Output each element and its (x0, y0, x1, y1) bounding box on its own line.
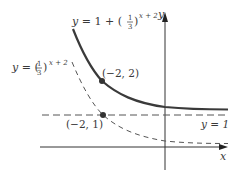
curve-solid-frac-num: 1 (128, 14, 132, 22)
curve-dashed-frac-num: 1 (37, 60, 41, 68)
graph-canvas: y = 1 + ( 1 3 ) x + 2 y y = ( 1 3 ) x + … (0, 0, 246, 181)
curve-dashed-frac-den: 3 (37, 69, 41, 77)
curve-dashed-label: y = ( (11, 61, 39, 74)
curve-solid-label: y = 1 + ( (71, 15, 122, 28)
point-label-neg2-2: (−2, 2) (102, 67, 139, 79)
paren-close: ) (43, 61, 47, 74)
curve-solid (73, 29, 228, 110)
curve-dashed-exponent: x + 2 (49, 59, 68, 67)
paren-close: ) (134, 15, 138, 28)
x-axis-label: x (220, 150, 227, 163)
point-label-neg2-1: (−2, 1) (66, 118, 103, 130)
curve-solid-exponent: x + 2 (139, 12, 158, 20)
curve-solid-frac-den: 3 (128, 23, 132, 31)
y-axis-label: y (157, 8, 165, 21)
asymptote-label: y = 1 (200, 118, 229, 130)
